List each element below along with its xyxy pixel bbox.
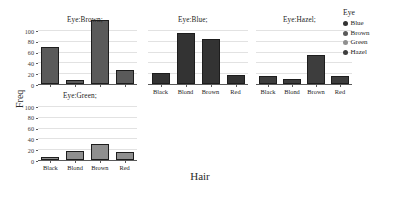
bar[interactable]: [259, 76, 276, 84]
legend-item-hazel[interactable]: Hazel: [343, 48, 399, 58]
bar[interactable]: [116, 152, 134, 160]
x-tickmark: [211, 85, 212, 87]
y-tickmark: [36, 31, 38, 32]
x-tickmark: [50, 85, 51, 87]
legend-item-blue[interactable]: Blue: [343, 19, 399, 29]
panel-eye-green: [38, 96, 137, 161]
legend-item-green[interactable]: Green: [343, 38, 399, 48]
chart-figure: Eye:Brown; Eye:Blue; Eye:Hazel; Eye:Gree…: [0, 0, 403, 199]
gridline: [148, 52, 248, 53]
y-tickmark: [36, 150, 38, 151]
gridline: [38, 30, 137, 31]
bar[interactable]: [177, 33, 195, 84]
x-tickmark: [125, 161, 126, 163]
bar[interactable]: [41, 157, 59, 160]
x-tick-label: Red: [328, 88, 352, 95]
bar[interactable]: [116, 70, 134, 84]
x-tick-label: Brown: [88, 164, 113, 171]
gridline: [148, 30, 248, 31]
x-tickmark: [75, 85, 76, 87]
x-tickmark: [125, 85, 126, 87]
y-tick-label: 80: [18, 114, 34, 121]
y-tickmark: [36, 107, 38, 108]
gridline: [38, 106, 137, 107]
bar[interactable]: [66, 151, 84, 160]
x-tickmark: [268, 85, 269, 87]
x-tickmark: [186, 85, 187, 87]
bar[interactable]: [202, 39, 220, 85]
bar[interactable]: [91, 20, 109, 84]
gridline: [148, 62, 248, 63]
x-tickmark: [161, 85, 162, 87]
legend-label-hazel: Hazel: [351, 48, 367, 58]
y-tickmark: [36, 161, 38, 162]
y-tick-label: 100: [18, 104, 34, 111]
y-tickmark: [36, 53, 38, 54]
x-tickmark: [50, 161, 51, 163]
x-tickmark: [100, 85, 101, 87]
bar[interactable]: [152, 73, 170, 84]
panel-title-green: Eye:Green;: [63, 92, 97, 100]
y-tick-label: 80: [18, 38, 34, 45]
legend-label-brown: Brown: [351, 29, 370, 39]
x-tick-label: Blond: [173, 88, 198, 95]
gridline: [38, 128, 137, 129]
bar[interactable]: [307, 55, 324, 84]
y-tick-label: 40: [18, 60, 34, 67]
panel-eye-brown: [38, 20, 137, 85]
x-tick-label: Red: [223, 88, 248, 95]
y-tick-label: 20: [18, 71, 34, 78]
x-tick-label: Black: [148, 88, 173, 95]
y-tickmark: [36, 129, 38, 130]
legend-swatch-green-icon: [343, 40, 348, 45]
x-axis-title: Hair: [160, 170, 240, 182]
bar[interactable]: [331, 76, 348, 84]
x-tick-label: Brown: [198, 88, 223, 95]
gridline: [256, 62, 352, 63]
x-tickmark: [340, 85, 341, 87]
x-tickmark: [236, 85, 237, 87]
x-tick-label: Blond: [280, 88, 304, 95]
legend-label-green: Green: [351, 38, 368, 48]
gridline: [38, 41, 137, 42]
axis-baseline: [38, 84, 137, 85]
legend-label-blue: Blue: [351, 19, 364, 29]
y-tick-label: 60: [18, 125, 34, 132]
panel-title-brown: Eye:Brown;: [67, 16, 103, 24]
x-tickmark: [100, 161, 101, 163]
legend-item-brown[interactable]: Brown: [343, 29, 399, 39]
x-tick-label: Brown: [304, 88, 328, 95]
gridline: [256, 73, 352, 74]
gridline: [38, 117, 137, 118]
bar[interactable]: [91, 144, 109, 160]
y-tick-label: 60: [18, 49, 34, 56]
bar[interactable]: [41, 47, 59, 84]
gridline: [148, 41, 248, 42]
y-tick-label: 40: [18, 136, 34, 143]
gridline: [38, 149, 137, 150]
bar[interactable]: [227, 75, 245, 84]
bar[interactable]: [66, 80, 84, 84]
y-tickmark: [36, 63, 38, 64]
x-tick-label: Blond: [63, 164, 88, 171]
axis-baseline: [256, 84, 352, 85]
axis-baseline: [38, 160, 137, 161]
x-tick-label: Black: [38, 164, 63, 171]
panel-title-hazel: Eye:Hazel;: [283, 16, 316, 24]
legend-swatch-hazel-icon: [343, 50, 348, 55]
y-tickmark: [36, 118, 38, 119]
y-tick-label: 20: [18, 147, 34, 154]
gridline: [38, 138, 137, 139]
legend-swatch-brown-icon: [343, 31, 348, 36]
legend-swatch-blue-icon: [343, 21, 348, 26]
y-tick-label: 0: [18, 82, 34, 89]
y-tickmark: [36, 74, 38, 75]
bar[interactable]: [283, 79, 300, 84]
legend-title: Eye: [343, 8, 399, 17]
panel-eye-blue: [148, 20, 248, 85]
y-tick-label: 0: [18, 158, 34, 165]
y-tickmark: [36, 42, 38, 43]
axis-baseline: [148, 84, 248, 85]
x-tickmark: [316, 85, 317, 87]
x-tickmark: [75, 161, 76, 163]
